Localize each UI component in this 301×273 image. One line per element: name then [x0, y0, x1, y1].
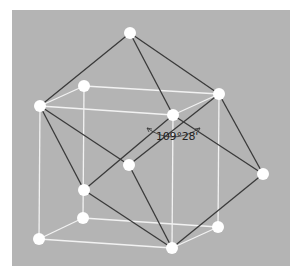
bond-line [40, 106, 129, 165]
bond-line [172, 174, 263, 248]
atom-front-bottom-left [33, 233, 45, 245]
atom-center [123, 159, 135, 171]
cube-edge [218, 94, 219, 227]
cube-edge [84, 86, 219, 94]
atom-back-top-right [213, 88, 225, 100]
tetrahedral-cube-diagram [0, 0, 301, 273]
cube-edge [83, 86, 84, 218]
bond-line [130, 33, 173, 115]
bonds [40, 33, 263, 248]
bond-line [84, 115, 173, 190]
bond-line [40, 33, 130, 106]
atom-back-bottom-left [77, 212, 89, 224]
atom-top [124, 27, 136, 39]
atom-mid-left [78, 184, 90, 196]
cube-edge [83, 218, 218, 227]
atoms [33, 27, 269, 254]
cube-edge [39, 239, 172, 248]
atom-back-bottom-right [212, 221, 224, 233]
bond-line [40, 106, 84, 190]
atom-front-top-left [34, 100, 46, 112]
cube-edge [40, 106, 173, 115]
atom-front-bottom-right [166, 242, 178, 254]
bond-angle-label: 109°28' [156, 130, 198, 143]
bond-line [219, 94, 263, 174]
cube-edge [40, 86, 84, 106]
cube-edge [39, 106, 40, 239]
bond-line [129, 165, 172, 248]
bond-line [130, 33, 219, 94]
cube-edge [172, 227, 218, 248]
atom-right [257, 168, 269, 180]
cube-edge [39, 218, 83, 239]
atom-front-top-right [167, 109, 179, 121]
atom-back-top-left [78, 80, 90, 92]
